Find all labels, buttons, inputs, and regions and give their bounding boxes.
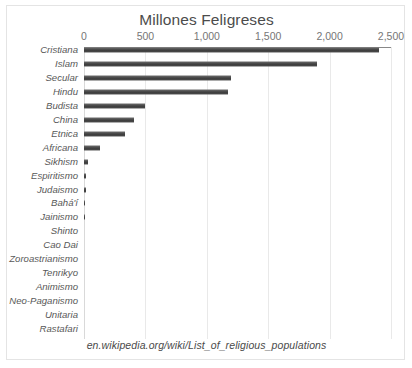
category-label: China: [53, 115, 78, 125]
category-axis-labels: CristianaIslamSecularHinduBudistaChinaEt…: [7, 47, 82, 339]
chart-title: Millones Feligreses: [7, 11, 406, 29]
gridline: [391, 47, 392, 339]
category-label: Zoroastrianismo: [9, 254, 78, 264]
source-note: en.wikipedia.org/wiki/List_of_religious_…: [7, 339, 406, 351]
bar: [84, 159, 88, 164]
category-label: Judaismo: [37, 185, 78, 195]
category-label: Unitaria: [45, 310, 78, 320]
bar: [84, 201, 85, 206]
x-tick-label: 2,000: [316, 30, 342, 42]
x-tick-label: 0: [81, 30, 87, 42]
bar: [84, 76, 231, 81]
category-label: Budista: [46, 101, 78, 111]
x-tick-label: 1,500: [255, 30, 281, 42]
plot-area: 05001,0001,5002,0002,500: [84, 47, 391, 339]
category-label: Tenrikyo: [42, 268, 78, 278]
category-label: Hindu: [53, 87, 78, 97]
bar: [84, 215, 85, 220]
category-label: Sikhism: [44, 157, 78, 167]
bar: [84, 104, 145, 109]
bar: [84, 145, 100, 150]
bar: [84, 90, 228, 95]
gridline: [330, 47, 331, 339]
bar: [84, 117, 134, 122]
bar: [84, 48, 379, 53]
chart-figure: Millones Feligreses CristianaIslamSecula…: [6, 5, 405, 360]
category-label: Cristiana: [40, 45, 78, 55]
category-label: Espiritismo: [31, 171, 78, 181]
bar: [84, 62, 317, 67]
category-label: Rastafari: [40, 324, 78, 334]
x-axis-tick-labels: 05001,0001,5002,0002,500: [84, 30, 391, 46]
x-tick-label: 1,000: [194, 30, 220, 42]
category-label: Africana: [43, 143, 78, 153]
x-tick-label: 500: [137, 30, 155, 42]
category-label: Bahá'í: [51, 198, 78, 208]
category-label: Shinto: [51, 226, 78, 236]
category-label: Neo-Paganismo: [9, 296, 78, 306]
category-label: Etnica: [51, 129, 78, 139]
bar: [84, 131, 125, 136]
bar: [84, 187, 86, 192]
gridline: [268, 47, 269, 339]
category-label: Islam: [55, 59, 78, 69]
bar: [84, 173, 86, 178]
category-label: Secular: [45, 73, 78, 83]
category-label: Jainismo: [40, 212, 78, 222]
category-label: Animismo: [36, 282, 78, 292]
x-tick-label: 2,500: [378, 30, 404, 42]
category-label: Cao Dai: [43, 240, 78, 250]
